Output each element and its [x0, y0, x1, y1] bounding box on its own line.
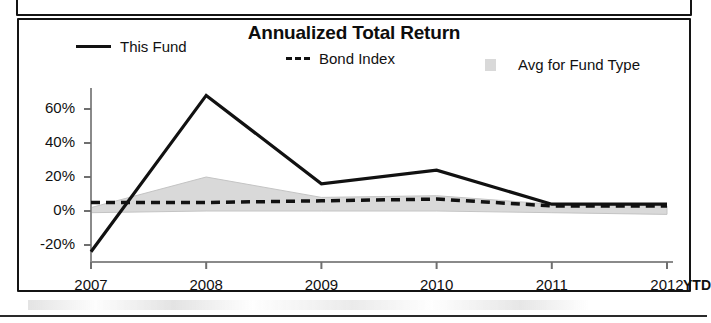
- y-axis-label: 60%: [45, 99, 75, 116]
- plot-area: [19, 20, 693, 294]
- y-axis-label: 20%: [45, 167, 75, 184]
- x-axis-label: 2007: [61, 276, 121, 293]
- series-line-this-fund: [91, 95, 667, 251]
- x-axis-ytd-label: YTD: [683, 277, 711, 293]
- x-axis-label: 2010: [407, 276, 467, 293]
- x-axis-label: 2011: [522, 276, 582, 293]
- page-bottom-rule: [0, 315, 707, 317]
- scan-artifact-smudge: [28, 300, 588, 310]
- plot-canvas: [19, 20, 693, 294]
- y-axis-label: 0%: [53, 201, 75, 218]
- series-area-avg-for-fund-type: [91, 177, 667, 214]
- panel-fragment-above: [16, 0, 692, 16]
- x-axis-label: 2008: [176, 276, 236, 293]
- annualized-total-return-panel: Annualized Total Return This Fund Bond I…: [17, 18, 691, 292]
- x-axis-label: 2009: [291, 276, 351, 293]
- y-axis-label: 40%: [45, 133, 75, 150]
- y-axis-label: -20%: [40, 235, 75, 252]
